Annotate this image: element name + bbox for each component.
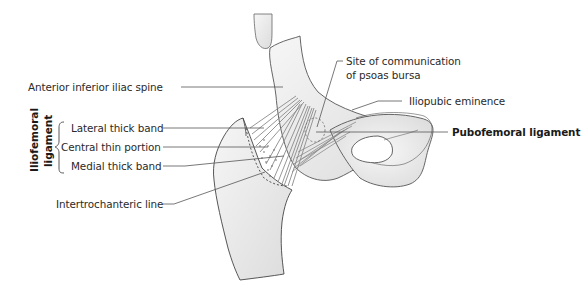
femur: [213, 118, 292, 280]
hip-ligament-diagram: Anterior inferior iliac spine Site of co…: [0, 0, 587, 294]
label-ligament: ligament: [42, 115, 54, 167]
label-medial-thick-band: Medial thick band: [71, 160, 161, 172]
label-iliopubic-eminence: Iliopubic eminence: [409, 95, 505, 107]
label-site-of-communication-2: of psoas bursa: [346, 69, 421, 81]
leader-iliopubic-eminence: [352, 101, 402, 110]
label-iliofemoral: Iliofemoral: [28, 108, 40, 172]
label-anterior-inferior-iliac-spine: Anterior inferior iliac spine: [28, 81, 163, 93]
label-pubofemoral-ligament: Pubofemoral ligament: [452, 126, 580, 138]
label-site-of-communication-1: Site of communication: [346, 55, 461, 67]
vertebra-stub: [254, 14, 272, 49]
iliofemoral-ligament-group-label: Iliofemoral ligament: [6, 112, 76, 172]
label-intertrochanteric-line: Intertrochanteric line: [56, 198, 163, 210]
label-lateral-thick-band: Lateral thick band: [71, 122, 163, 134]
